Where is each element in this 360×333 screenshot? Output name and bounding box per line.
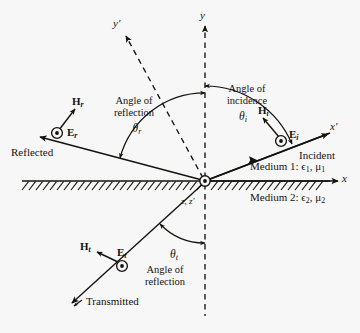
angle-of-reflection-line2: reflection [114,107,154,119]
e-transmitted-subscript: t [124,251,126,260]
h-transmitted-subscript: t [89,245,91,254]
h-incident-subscript: i [267,109,269,118]
e-reflected-label: Er [67,126,77,141]
interface-boundary [22,181,330,190]
medium-1-label: Medium 1: ϵ1, μ1 [250,160,325,175]
medium-1-mu-subscript: 1 [321,165,325,174]
theta-t-symbol: θt [170,248,178,262]
axis-label-x-prime: x′ [330,120,337,132]
axis-label-x: x [342,172,347,184]
h-reflected-label: Hr [72,95,84,110]
theta-t-subscript: t [176,253,178,262]
e-transmitted-circled-dot [117,261,128,272]
h-incident-label: Hi [258,104,269,119]
e-incident-circled-dot [276,136,287,147]
physics-diagram-figure: y′ y x′ x z, z′ Angle of reflection θr A… [0,0,360,333]
angle-of-transmission-line2: reflection [145,276,185,288]
transmitted-ray-label: Transmitted [86,295,139,307]
medium-2-name: Medium 2: [250,191,299,203]
angle-of-incidence-line1: Angle of [227,83,267,95]
h-reflected-subscript: r [81,100,84,109]
axis-label-y-prime: y′ [113,17,120,29]
e-reflected-circled-dot [52,128,63,139]
angle-of-reflection-label: Angle of reflection [114,95,154,120]
e-incident-subscript: i [296,133,298,142]
reflected-ray-label: Reflected [11,146,53,158]
axis-label-y: y [200,9,205,21]
angle-of-transmission-line1: Angle of [145,264,185,276]
axis-label-z-origin: z, z′ [181,196,194,206]
theta-i-symbol: θi [239,110,247,124]
theta-i-subscript: i [245,115,247,124]
h-transmitted-label: Ht [80,240,91,255]
theta-r-subscript: r [138,127,141,136]
e-transmitted-label: Et [117,246,127,261]
e-reflected-subscript: r [74,131,77,140]
medium-2-label: Medium 2: ϵ2, μ2 [250,191,325,206]
h-incident-vector-arrow [263,118,279,137]
h-transmitted-vector-arrow [97,252,118,262]
angle-of-reflection-line1: Angle of [114,95,154,107]
reflected-ray [40,137,204,181]
angle-of-transmission-label: Angle of reflection [145,264,185,289]
theta-r-symbol: θr [133,122,142,136]
h-incident-glyph: H [258,104,267,116]
h-transmitted-glyph: H [80,240,89,252]
e-incident-label: Ei [289,128,299,143]
h-reflected-glyph: H [72,95,81,107]
origin-z-axis-marker [200,176,210,186]
medium-1-name: Medium 1: [250,160,299,172]
medium-2-mu-subscript: 2 [321,196,325,205]
transmission-angle-arc [160,224,205,243]
